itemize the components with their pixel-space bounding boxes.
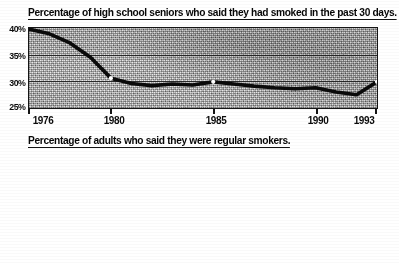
series-marker-dot <box>109 76 113 80</box>
newspaper-chart-page: Percentage of high school seniors who sa… <box>0 0 399 263</box>
x-tick-label: 1985 <box>206 115 227 126</box>
plot-area-seniors <box>28 27 378 109</box>
chart-figure-adults: Percentage of adults who said they were … <box>0 130 399 263</box>
y-axis-seniors: 40% 35% 30% 25% <box>0 27 27 109</box>
y-tick-label: 30% <box>10 78 26 88</box>
plot-inner-seniors <box>29 28 377 108</box>
x-tick-mark <box>375 109 377 114</box>
chart-figure-seniors: Percentage of high school seniors who sa… <box>0 0 399 130</box>
chart-title-adults: Percentage of adults who said they were … <box>28 134 290 148</box>
x-tick-label: 1990 <box>308 115 329 126</box>
x-tick-label: 1980 <box>104 115 125 126</box>
x-tick-label: 1976 <box>33 115 54 126</box>
y-tick-label: 25% <box>10 102 26 112</box>
series-line-seniors <box>29 28 377 108</box>
x-tick-label: 1993 <box>354 115 375 126</box>
series-marker-dot <box>211 80 215 84</box>
x-axis-seniors: 1976 1980 1985 1990 1993 <box>28 109 378 129</box>
y-tick-label: 35% <box>10 51 26 61</box>
x-tick-mark <box>28 109 30 114</box>
chart-title-seniors: Percentage of high school seniors who sa… <box>28 6 397 20</box>
series-polyline-seniors <box>29 29 377 95</box>
series-markers-seniors <box>109 76 377 84</box>
y-tick-label: 40% <box>10 24 26 34</box>
